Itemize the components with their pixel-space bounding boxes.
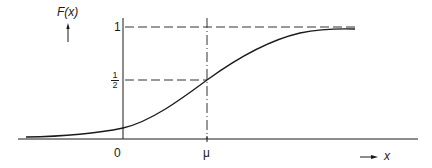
y-axis-arrow-icon xyxy=(66,23,69,29)
x-axis-label: x xyxy=(384,150,390,162)
x-axis-arrow-icon xyxy=(371,155,378,159)
half-numerator: 1 xyxy=(112,70,117,80)
tick-label-one: 1 xyxy=(114,21,121,33)
tick-label-mu: μ xyxy=(203,147,210,159)
half-denominator: 2 xyxy=(112,80,117,90)
y-axis-label: F(x) xyxy=(57,6,78,18)
cdf-curve xyxy=(26,29,355,137)
tick-label-zero: 0 xyxy=(114,147,121,159)
tick-label-half: 1 2 xyxy=(110,71,120,90)
cdf-chart xyxy=(0,0,432,168)
